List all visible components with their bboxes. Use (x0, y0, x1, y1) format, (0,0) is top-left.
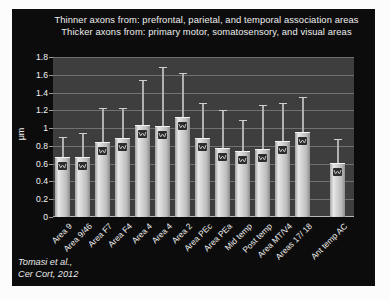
chart-title: Thinner axons from: prefrontal, parietal… (12, 9, 375, 37)
y-tick-label-1-8: 1.8 (12, 52, 48, 62)
error-bar-cap (259, 105, 267, 106)
bar-marker-icon (218, 153, 227, 161)
bar-marker-icon (158, 131, 167, 139)
error-bar-cap (139, 80, 147, 81)
bar-marker-icon (198, 143, 207, 151)
error-bar-area-pec (202, 104, 204, 138)
error-bar-area-4 (142, 81, 144, 125)
error-bar-areas-17-18 (302, 98, 304, 132)
error-bar-area-pea (222, 111, 224, 147)
y-tick-mark (49, 217, 53, 218)
bar-marker-icon (238, 156, 247, 164)
y-tick-label-0-6: 0.6 (12, 159, 48, 169)
error-bar-cap (279, 103, 287, 104)
bar-marker-icon (78, 162, 87, 170)
bar-marker-icon (333, 168, 342, 176)
y-tick-label-1: 1 (12, 123, 48, 133)
y-tick-label-1-2: 1.2 (12, 105, 48, 115)
error-bar-area-4 (162, 68, 164, 127)
title-line-1: Thinner axons from: prefrontal, parietal… (38, 14, 375, 26)
page-background: Thinner axons from: prefrontal, parietal… (0, 0, 390, 300)
bar-area-2 (175, 117, 190, 217)
error-bar-area-9 (62, 138, 64, 158)
error-bar-cap (59, 137, 67, 138)
y-tick-label-1-4: 1.4 (12, 88, 48, 98)
bar-marker-icon (258, 154, 267, 162)
error-bar-cap (159, 67, 167, 68)
error-bar-mid-temp (242, 121, 244, 151)
y-tick-label-0-2: 0.2 (12, 194, 48, 204)
bar-marker-icon (58, 162, 67, 170)
gridline (53, 128, 354, 129)
error-bar-cap (79, 133, 87, 134)
error-bar-area-f4 (122, 109, 124, 138)
error-bar-cap (179, 73, 187, 74)
gridline (53, 57, 354, 58)
y-tick-label-0-8: 0.8 (12, 141, 48, 151)
error-bar-cap (119, 108, 127, 109)
bar-marker-icon (178, 122, 187, 130)
bar-marker-icon (118, 143, 127, 151)
error-bar-area-mt-v4 (282, 104, 284, 140)
error-bar-post-temp (262, 106, 264, 149)
bar-area-4 (135, 125, 150, 217)
y-tick-label-1-6: 1.6 (12, 70, 48, 80)
gridline (53, 110, 354, 111)
bar-marker-icon (298, 137, 307, 145)
error-bar-cap (334, 139, 342, 140)
plot-area (53, 57, 354, 217)
bar-marker-icon (138, 130, 147, 138)
error-bar-ant-temp-ac (337, 140, 339, 163)
error-bar-cap (219, 110, 227, 111)
error-bar-cap (99, 108, 107, 109)
error-bar-cap (199, 103, 207, 104)
citation-line-1: Tomasi et al., (18, 257, 78, 269)
slide: Thinner axons from: prefrontal, parietal… (12, 9, 375, 286)
error-bar-area-2 (182, 74, 184, 117)
bar-marker-icon (98, 147, 107, 155)
error-bar-area-f7 (102, 109, 104, 142)
gridline (53, 93, 354, 94)
error-bar-cap (239, 120, 247, 121)
gridline (53, 75, 354, 76)
error-bar-area-9-46 (82, 134, 84, 156)
y-tick-label-0: 0 (12, 212, 48, 222)
citation-line-2: Cer Cort, 2012 (18, 269, 78, 281)
bar-marker-icon (278, 146, 287, 154)
bar-area-4 (155, 126, 170, 217)
title-line-2: Thicker axons from: primary motor, somat… (38, 26, 375, 38)
error-bar-cap (299, 97, 307, 98)
citation: Tomasi et al., Cer Cort, 2012 (18, 257, 78, 280)
y-tick-label-0-4: 0.4 (12, 176, 48, 186)
